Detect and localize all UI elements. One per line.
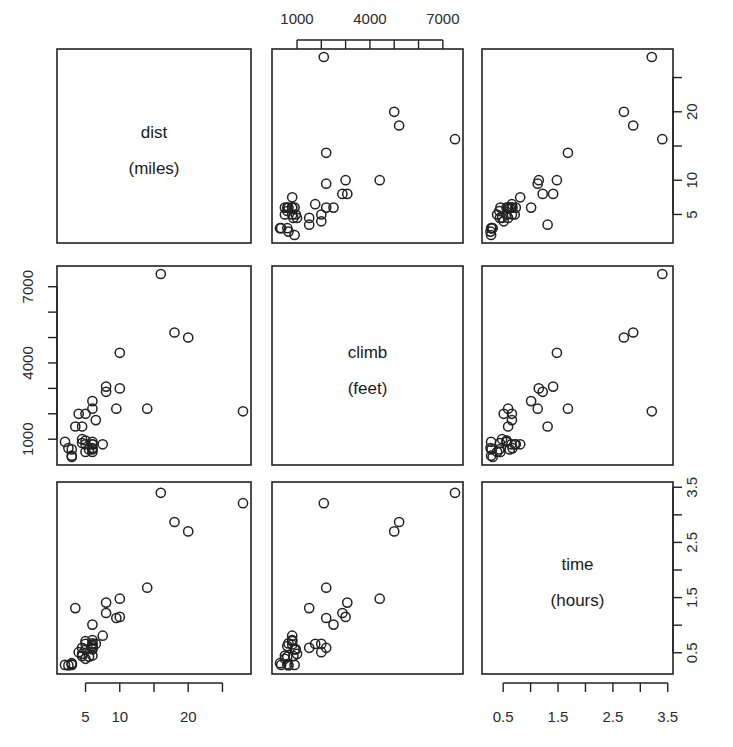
tick-label: 7000	[426, 10, 459, 27]
data-point	[527, 397, 536, 406]
data-point	[543, 220, 552, 229]
data-point	[543, 422, 552, 431]
data-point	[98, 440, 107, 449]
data-point	[156, 269, 165, 278]
data-point	[156, 488, 165, 497]
bottom-axis-time: 0.51.52.53.5	[493, 683, 678, 725]
tick-label: 3.5	[657, 708, 678, 725]
data-point	[527, 203, 536, 212]
tick-label: 10	[111, 708, 128, 725]
data-point	[115, 348, 124, 357]
data-point	[549, 382, 558, 391]
data-point	[563, 404, 572, 413]
data-point	[322, 179, 331, 188]
data-point	[322, 613, 331, 622]
data-point	[288, 193, 297, 202]
panel-climb-vs-climb: climb(feet)	[272, 266, 463, 465]
right-axis-time: 0.51.52.53.5	[673, 477, 700, 663]
bottom-axis-climb: 100040007000	[280, 10, 459, 49]
variable-unit-label: (miles)	[129, 159, 180, 178]
data-point	[71, 422, 80, 431]
data-point	[98, 631, 107, 640]
tick-label: 1000	[280, 10, 313, 27]
data-point	[619, 333, 628, 342]
data-point	[549, 189, 558, 198]
data-point	[102, 598, 111, 607]
data-point	[170, 517, 179, 526]
data-point	[395, 517, 404, 526]
tick-label: 20	[683, 103, 700, 120]
data-point	[322, 148, 331, 157]
tick-label: 10	[683, 172, 700, 189]
data-point	[563, 148, 572, 157]
data-point	[619, 107, 628, 116]
data-point	[317, 217, 326, 226]
data-point	[658, 269, 667, 278]
panel-frame	[482, 482, 673, 674]
data-point	[390, 107, 399, 116]
panel-climb-vs-dist	[57, 266, 251, 465]
data-point	[115, 384, 124, 393]
panel-time-vs-climb	[272, 482, 463, 674]
data-point	[450, 488, 459, 497]
data-point	[375, 594, 384, 603]
data-point	[305, 604, 314, 613]
tick-label: 1.5	[548, 708, 569, 725]
data-point	[102, 608, 111, 617]
panel-dist-vs-dist: dist(miles)	[57, 49, 251, 243]
tick-label: 20	[180, 708, 197, 725]
panel-frame	[482, 266, 673, 465]
variable-unit-label: (feet)	[348, 379, 388, 398]
data-point	[552, 176, 561, 185]
data-point	[311, 200, 320, 209]
data-point	[184, 333, 193, 342]
data-point	[658, 135, 667, 144]
tick-label: 4000	[353, 10, 386, 27]
tick-label: 5	[683, 210, 700, 218]
panel-climb-vs-time	[482, 266, 673, 465]
tick-label: 1.5	[683, 587, 700, 608]
tick-label: 0.5	[493, 708, 514, 725]
panel-frame	[57, 49, 251, 243]
data-point	[238, 499, 247, 508]
data-point	[341, 176, 350, 185]
variable-name-label: time	[561, 555, 593, 574]
panel-dist-vs-climb	[272, 49, 463, 243]
tick-label: 0.5	[683, 642, 700, 663]
data-point	[184, 527, 193, 536]
data-point	[629, 328, 638, 337]
data-point	[450, 135, 459, 144]
data-point	[647, 407, 656, 416]
data-point	[115, 594, 124, 603]
data-point	[343, 598, 352, 607]
data-point	[170, 328, 179, 337]
data-point	[647, 52, 656, 61]
tick-label: 4000	[19, 346, 36, 379]
tick-label: 5	[81, 708, 89, 725]
bottom-axis-dist: 51020	[81, 683, 222, 725]
panel-frame	[272, 266, 463, 465]
data-point	[533, 404, 542, 413]
panel-time-vs-time: time(hours)	[482, 482, 673, 674]
tick-label: 3.5	[683, 477, 700, 498]
variable-unit-label: (hours)	[551, 591, 605, 610]
data-point	[238, 407, 247, 416]
data-point	[322, 583, 331, 592]
tick-label: 7000	[19, 270, 36, 303]
data-point	[375, 176, 384, 185]
data-point	[88, 620, 97, 629]
tick-label: 1000	[19, 423, 36, 456]
data-point	[305, 220, 314, 229]
data-point	[319, 52, 328, 61]
data-point	[74, 409, 83, 418]
tick-label: 2.5	[602, 708, 623, 725]
data-point	[395, 121, 404, 130]
data-point	[629, 121, 638, 130]
panel-time-vs-dist	[57, 482, 251, 674]
right-axis-dist: 51020	[673, 78, 700, 219]
data-point	[516, 193, 525, 202]
data-point	[319, 499, 328, 508]
panel-frame	[57, 266, 251, 465]
variable-name-label: climb	[348, 343, 388, 362]
data-point	[71, 604, 80, 613]
